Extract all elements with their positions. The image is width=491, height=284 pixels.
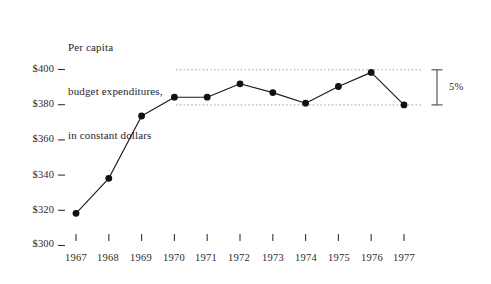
data-point-1975 [335, 83, 342, 90]
plot-area [0, 0, 491, 284]
data-point-1967 [73, 210, 80, 217]
data-points [73, 69, 408, 217]
chart-figure: Per capita budget expenditures, in const… [0, 0, 491, 284]
reference-lines [176, 70, 421, 105]
range-bracket-icon [432, 70, 443, 105]
data-point-1976 [368, 69, 375, 76]
data-line [76, 72, 404, 213]
data-point-1977 [401, 102, 408, 109]
data-point-1969 [138, 113, 145, 120]
data-point-1972 [237, 80, 244, 87]
data-point-1970 [171, 94, 178, 101]
x-axis-ticks [76, 234, 404, 241]
data-point-1973 [269, 89, 276, 96]
data-point-1971 [204, 94, 211, 101]
data-point-1968 [105, 175, 112, 182]
data-point-1974 [302, 100, 309, 107]
y-axis-ticks [58, 70, 65, 246]
